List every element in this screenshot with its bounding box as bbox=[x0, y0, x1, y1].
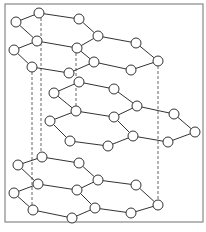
bond bbox=[33, 210, 72, 218]
atom-node bbox=[153, 200, 163, 210]
bond bbox=[70, 141, 108, 146]
bond bbox=[38, 184, 77, 190]
atom-node bbox=[9, 188, 19, 198]
atom-node bbox=[163, 137, 173, 147]
atom-node bbox=[74, 158, 84, 168]
bond bbox=[94, 62, 131, 70]
atom-node bbox=[89, 57, 99, 67]
lattice-canvas bbox=[0, 0, 206, 232]
bond bbox=[37, 41, 77, 48]
atom-node bbox=[90, 203, 100, 213]
bond bbox=[137, 106, 174, 114]
atom-node bbox=[37, 152, 47, 162]
atom-node bbox=[67, 213, 77, 223]
lattice-diagram bbox=[0, 0, 206, 232]
bond bbox=[98, 36, 136, 43]
atom-node bbox=[109, 112, 119, 122]
atom-node bbox=[32, 36, 42, 46]
atom-node bbox=[103, 141, 113, 151]
atom-node bbox=[93, 175, 103, 185]
lattice-layers bbox=[9, 8, 200, 223]
atom-node bbox=[93, 31, 103, 41]
atom-node bbox=[74, 77, 84, 87]
atom-node bbox=[33, 179, 43, 189]
bond bbox=[42, 157, 79, 163]
atom-node bbox=[11, 17, 21, 27]
atom-node bbox=[109, 84, 119, 94]
atom-node bbox=[131, 180, 141, 190]
atom-node bbox=[28, 205, 38, 215]
atom-node bbox=[131, 38, 141, 48]
atom-node bbox=[27, 62, 37, 72]
atom-node bbox=[65, 136, 75, 146]
atom-node bbox=[72, 43, 82, 53]
middle-layer bbox=[45, 77, 200, 151]
atom-node bbox=[128, 131, 138, 141]
atom-node bbox=[13, 160, 23, 170]
atom-node bbox=[64, 68, 74, 78]
top-layer bbox=[9, 8, 163, 78]
atom-node bbox=[9, 45, 19, 55]
atom-node bbox=[126, 208, 136, 218]
atom-node bbox=[169, 109, 179, 119]
atom-node bbox=[34, 8, 44, 18]
atom-node bbox=[74, 14, 84, 24]
bond bbox=[39, 13, 79, 19]
atom-node bbox=[126, 65, 136, 75]
atom-node bbox=[72, 185, 82, 195]
atom-node bbox=[190, 127, 200, 137]
bond bbox=[76, 111, 114, 117]
atom-node bbox=[132, 101, 142, 111]
atom-node bbox=[45, 116, 55, 126]
atom-node bbox=[71, 106, 81, 116]
atom-node bbox=[49, 88, 59, 98]
bond bbox=[32, 67, 69, 73]
atom-node bbox=[153, 56, 163, 66]
bond bbox=[98, 180, 136, 185]
